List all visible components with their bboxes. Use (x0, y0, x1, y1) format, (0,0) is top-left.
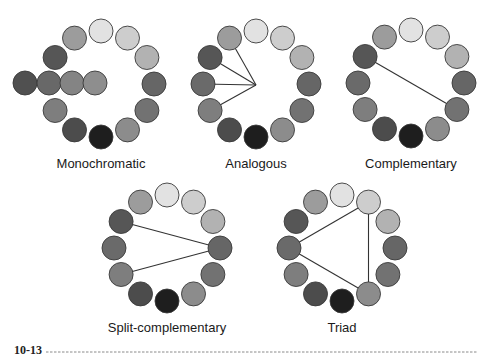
color-harmony-figure: Monochromatic Analogous Complementary Sp… (0, 0, 491, 358)
color-swatches (13, 19, 166, 149)
color-swatch-8-oclock (198, 99, 222, 123)
color-swatch-1-oclock (116, 26, 140, 50)
color-swatch-12-oclock (330, 183, 354, 207)
harmony-line (365, 57, 457, 110)
color-swatches (102, 183, 232, 313)
figure-number: 10-13 (14, 343, 42, 357)
color-swatch-10-oclock (43, 46, 67, 70)
color-swatch-1-oclock (271, 26, 295, 50)
color-swatch-7-oclock (63, 118, 87, 142)
color-swatch-8-oclock (353, 98, 377, 122)
color-swatch-7-oclock (129, 282, 153, 306)
color-swatch-11-oclock (373, 25, 397, 49)
color-swatch-5-oclock (116, 118, 140, 142)
color-swatch-8-oclock (43, 99, 67, 123)
color-swatch-3-oclock (208, 236, 232, 260)
color-swatch-8-oclock (109, 263, 133, 287)
color-swatches (277, 183, 407, 313)
color-swatch-4-oclock (445, 98, 469, 122)
color-swatch-3-oclock (452, 71, 476, 95)
color-swatch-10-oclock (198, 46, 222, 70)
tint-swatch (60, 71, 84, 95)
figure-footer: 10-13 (14, 343, 477, 357)
color-swatch-2-oclock (135, 46, 159, 70)
color-swatch-1-oclock (357, 190, 381, 214)
color-swatch-3-oclock (297, 72, 321, 96)
color-swatch-11-oclock (218, 26, 242, 50)
wheel-complementary: Complementary (346, 18, 476, 171)
tint-swatch (13, 71, 37, 95)
color-swatch-5-oclock (182, 282, 206, 306)
color-swatch-2-oclock (290, 46, 314, 70)
color-swatch-9-oclock (102, 236, 126, 260)
wheel-label-analogous: Analogous (225, 156, 287, 171)
color-swatch-6-oclock (244, 125, 268, 149)
color-swatch-10-oclock (284, 210, 308, 234)
color-swatch-7-oclock (304, 282, 328, 306)
wheel-analogous: Analogous (191, 19, 321, 171)
wheel-triad: Triad (277, 183, 407, 335)
color-swatch-2-oclock (445, 45, 469, 69)
color-swatch-11-oclock (129, 190, 153, 214)
color-swatch-4-oclock (201, 263, 225, 287)
color-swatch-1-oclock (426, 25, 450, 49)
color-swatch-9-oclock (191, 72, 215, 96)
tint-swatch (37, 71, 61, 95)
harmony-lines (365, 57, 457, 110)
color-swatch-6-oclock (89, 125, 113, 149)
wheel-label-split-complementary: Split-complementary (108, 320, 227, 335)
wheel-split-complementary: Split-complementary (102, 183, 232, 335)
color-swatch-5-oclock (426, 117, 450, 141)
wheel-monochromatic: Monochromatic (13, 19, 166, 171)
color-swatch-6-oclock (330, 289, 354, 313)
color-swatch-6-oclock (399, 124, 423, 148)
color-swatch-12-oclock (244, 19, 268, 43)
color-swatch-11-oclock (304, 190, 328, 214)
color-swatch-10-oclock (109, 210, 133, 234)
color-swatch-3-oclock (383, 236, 407, 260)
color-swatch-1-oclock (182, 190, 206, 214)
color-swatch-11-oclock (63, 26, 87, 50)
color-swatch-2-oclock (201, 210, 225, 234)
color-swatch-4-oclock (290, 99, 314, 123)
color-swatch-2-oclock (376, 210, 400, 234)
color-swatch-9-oclock (277, 236, 301, 260)
color-swatch-12-oclock (89, 19, 113, 43)
color-swatch-12-oclock (399, 18, 423, 42)
color-swatch-4-oclock (376, 263, 400, 287)
color-swatch-3-oclock (142, 72, 166, 96)
color-swatch-8-oclock (284, 263, 308, 287)
color-swatch-5-oclock (271, 118, 295, 142)
color-swatch-6-oclock (155, 289, 179, 313)
color-swatch-7-oclock (218, 118, 242, 142)
color-swatch-12-oclock (155, 183, 179, 207)
tint-swatch (83, 71, 107, 95)
wheel-label-complementary: Complementary (365, 156, 457, 171)
wheel-label-monochromatic: Monochromatic (57, 156, 146, 171)
color-swatch-4-oclock (135, 99, 159, 123)
color-swatch-5-oclock (357, 282, 381, 306)
color-swatch-7-oclock (373, 117, 397, 141)
wheel-label-triad: Triad (327, 320, 356, 335)
color-swatch-9-oclock (346, 71, 370, 95)
color-swatch-10-oclock (353, 45, 377, 69)
